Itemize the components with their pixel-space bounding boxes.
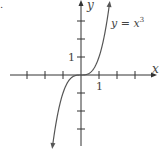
curve-label: y = x3 xyxy=(111,17,144,29)
y-axis-label: y xyxy=(87,0,94,11)
y-axis xyxy=(77,0,85,146)
x-axis-label: x xyxy=(152,63,159,75)
x-tick-label-1: 1 xyxy=(96,81,103,92)
y-tick-label-1: 1 xyxy=(68,52,75,63)
y-axis-arrow-icon xyxy=(79,0,84,6)
curve-arrow-top-icon xyxy=(107,1,112,7)
curve-arrow-bottom-icon xyxy=(50,143,55,149)
